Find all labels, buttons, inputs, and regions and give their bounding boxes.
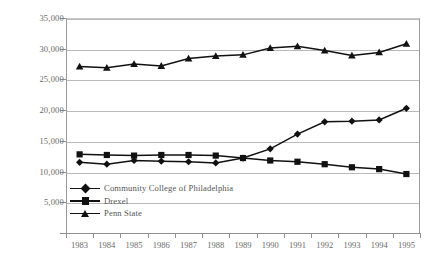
- x-tick-label: 1986: [153, 240, 170, 250]
- chart-legend: Community College of PhiladelphiaDrexelP…: [70, 182, 233, 220]
- gridline: [67, 111, 419, 112]
- legend-label: Penn State: [104, 208, 142, 218]
- x-tick-mark: [148, 233, 149, 238]
- gridline: [67, 173, 419, 174]
- x-tick-label: 1990: [262, 240, 279, 250]
- gridline: [67, 142, 419, 143]
- x-tick-mark: [202, 233, 203, 238]
- y-tick-label: 25,000: [6, 74, 64, 84]
- x-tick-mark: [338, 233, 339, 238]
- y-tick-label: 35,000: [6, 13, 64, 23]
- legend-item[interactable]: Drexel: [70, 195, 233, 208]
- diamond-marker-icon: [70, 182, 100, 194]
- x-tick-mark: [284, 233, 285, 238]
- x-tick-label: 1989: [235, 240, 252, 250]
- x-tick-mark: [393, 233, 394, 238]
- square-marker-icon: [70, 195, 100, 207]
- y-tick-label: 20,000: [6, 105, 64, 115]
- x-tick-mark: [120, 233, 121, 238]
- y-tick-label: 15,000: [6, 136, 64, 146]
- line-chart: 5,00010,00015,00020,00025,00030,00035,00…: [0, 0, 438, 261]
- x-tick-label: 1994: [371, 240, 388, 250]
- x-tick-mark: [93, 233, 94, 238]
- x-tick-mark: [420, 233, 421, 238]
- x-tick-mark: [366, 233, 367, 238]
- y-tick-label: 10,000: [6, 167, 64, 177]
- gridline: [67, 50, 419, 51]
- x-tick-label: 1992: [316, 240, 333, 250]
- x-tick-label: 1987: [180, 240, 197, 250]
- x-tick-label: 1983: [71, 240, 88, 250]
- legend-label: Community College of Philadelphia: [104, 183, 233, 193]
- gridline: [67, 80, 419, 81]
- x-tick-mark: [66, 233, 67, 238]
- y-tick-label: 30,000: [6, 44, 64, 54]
- gridline: [67, 19, 419, 20]
- legend-item[interactable]: Penn State: [70, 207, 233, 220]
- x-tick-mark: [257, 233, 258, 238]
- x-tick-label: 1988: [207, 240, 224, 250]
- x-tick-mark: [311, 233, 312, 238]
- x-tick-mark: [175, 233, 176, 238]
- x-tick-mark: [229, 233, 230, 238]
- x-tick-label: 1995: [398, 240, 415, 250]
- x-tick-label: 1984: [98, 240, 115, 250]
- legend-item[interactable]: Community College of Philadelphia: [70, 182, 233, 195]
- x-tick-label: 1993: [343, 240, 360, 250]
- x-tick-label: 1985: [126, 240, 143, 250]
- triangle-marker-icon: [70, 207, 100, 219]
- x-tick-label: 1991: [289, 240, 306, 250]
- y-tick-label: 5,000: [6, 197, 64, 207]
- legend-label: Drexel: [104, 196, 128, 206]
- x-axis-line: [66, 233, 420, 234]
